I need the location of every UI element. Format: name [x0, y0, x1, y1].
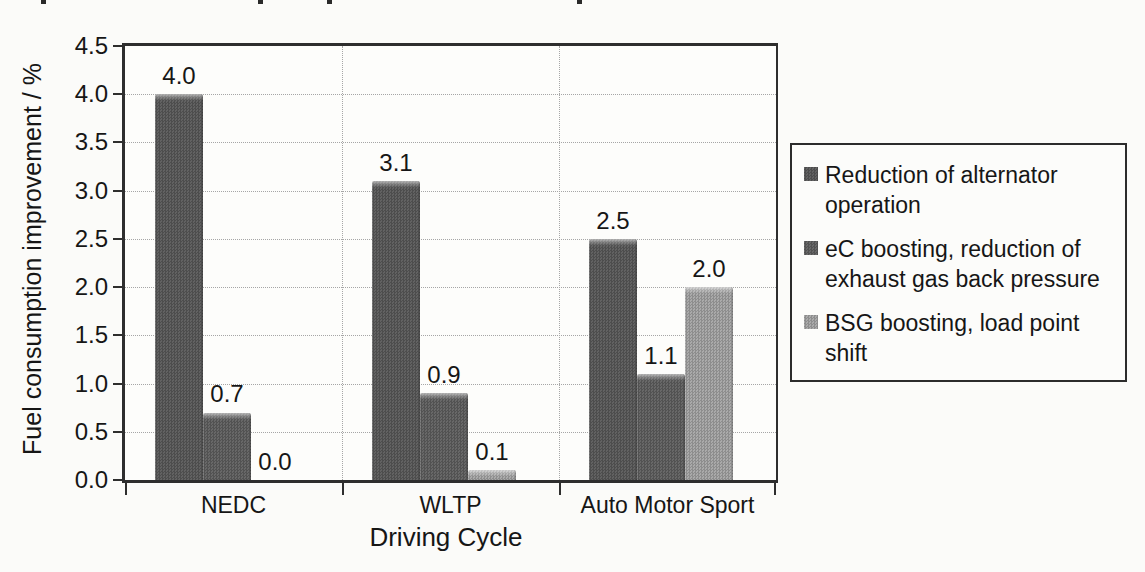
- y-axis-tick-label: 3.0: [38, 177, 108, 204]
- y-axis-tick: [113, 431, 122, 433]
- bar-chart-figure: Fuel consumption improvement / % 4.00.70…: [0, 0, 1145, 572]
- bar-value-label: 0.0: [240, 449, 310, 475]
- y-axis-tick: [113, 141, 122, 143]
- cropped-text-descender-mark: [41, 0, 46, 4]
- y-axis-tick: [113, 334, 122, 336]
- plot-area: 4.00.70.03.10.90.12.51.12.0: [122, 43, 778, 483]
- legend-item-3: BSG boosting, load point shift: [804, 308, 1117, 368]
- chart-legend: Reduction of alternator operationeC boos…: [790, 143, 1127, 382]
- y-axis-tick: [113, 479, 122, 481]
- bar-wltp-series2: [420, 393, 468, 480]
- y-axis-tick-label: 1.5: [38, 321, 108, 348]
- y-axis-tick: [113, 190, 122, 192]
- y-axis-tick-label: 0.0: [38, 466, 108, 493]
- horizontal-gridline: [125, 335, 776, 336]
- legend-swatch-icon: [804, 167, 818, 181]
- bar-value-label: 0.7: [192, 381, 262, 407]
- y-axis-tick-label: 3.5: [38, 128, 108, 155]
- bar-value-label: 3.1: [361, 150, 431, 176]
- legend-label: BSG boosting, load point shift: [825, 308, 1117, 368]
- bar-value-label: 0.1: [457, 439, 527, 465]
- x-axis-title: Driving Cycle: [296, 522, 596, 553]
- bar-auto-motor-sport-series2: [637, 374, 685, 480]
- y-axis-tick-label: 4.5: [38, 32, 108, 59]
- bar-wltp-series3: [468, 470, 516, 480]
- legend-label: Reduction of alternator operation: [825, 160, 1117, 220]
- horizontal-gridline: [125, 142, 776, 143]
- bar-auto-motor-sport-series3: [685, 287, 733, 480]
- y-axis-tick-label: 2.0: [38, 273, 108, 300]
- cropped-text-descender-mark: [258, 0, 263, 4]
- legend-swatch-icon: [804, 315, 818, 329]
- cropped-text-descender-mark: [327, 0, 332, 4]
- vertical-gridline: [559, 46, 560, 480]
- bar-wltp-series1: [372, 181, 420, 480]
- bar-value-label: 0.9: [409, 362, 479, 388]
- horizontal-gridline: [125, 239, 776, 240]
- category-label-auto-motor-sport: Auto Motor Sport: [558, 492, 778, 518]
- legend-label: eC boosting, reduction of exhaust gas ba…: [825, 234, 1117, 294]
- horizontal-gridline: [125, 287, 776, 288]
- y-axis-tick: [113, 93, 122, 95]
- bar-value-label: 4.0: [144, 63, 214, 89]
- legend-swatch-icon: [804, 241, 818, 255]
- category-label-wltp: WLTP: [341, 492, 561, 518]
- horizontal-gridline: [125, 94, 776, 95]
- cropped-text-descender-mark: [577, 0, 582, 4]
- category-label-nedc: NEDC: [124, 492, 344, 518]
- bar-nedc-series1: [155, 94, 203, 480]
- y-axis-tick-label: 0.5: [38, 418, 108, 445]
- y-axis-tick: [113, 286, 122, 288]
- y-axis-tick: [113, 383, 122, 385]
- y-axis-tick: [113, 45, 122, 47]
- y-axis-tick-label: 1.0: [38, 370, 108, 397]
- bar-value-label: 2.5: [578, 208, 648, 234]
- vertical-gridline: [342, 46, 343, 480]
- y-axis-tick-label: 4.0: [38, 80, 108, 107]
- y-axis-tick-label: 2.5: [38, 225, 108, 252]
- bar-value-label: 2.0: [674, 256, 744, 282]
- horizontal-gridline: [125, 191, 776, 192]
- y-axis-tick: [113, 238, 122, 240]
- legend-item-1: Reduction of alternator operation: [804, 160, 1117, 220]
- legend-item-2: eC boosting, reduction of exhaust gas ba…: [804, 234, 1117, 294]
